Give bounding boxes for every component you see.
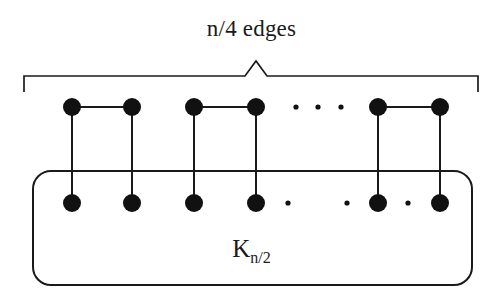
brace-path	[24, 61, 478, 92]
brace-n-over-4-edges	[24, 61, 478, 92]
node-b2	[123, 194, 141, 212]
ellipsis-dot-top-3	[338, 104, 343, 109]
node-b4	[247, 194, 265, 212]
node-t6	[431, 98, 449, 116]
ellipsis-dot-bottom-2	[344, 200, 349, 205]
node-t2	[123, 98, 141, 116]
ellipsis-dot-bottom-1	[285, 200, 290, 205]
ellipsis-dot-top-1	[293, 104, 298, 109]
ellipsis-dot-top-2	[315, 104, 320, 109]
bottom-row-nodes	[63, 194, 449, 212]
clique-label: Kn/2	[0, 235, 503, 267]
node-t4	[247, 98, 265, 116]
top-row-ellipsis-dots	[293, 104, 343, 109]
node-b6	[431, 194, 449, 212]
bottom-row-ellipsis-dots	[285, 200, 410, 205]
node-b3	[185, 194, 203, 212]
vertical-edges	[72, 107, 440, 203]
clique-box-rect	[33, 171, 472, 285]
node-b1	[63, 194, 81, 212]
ellipsis-dot-bottom-3	[405, 200, 410, 205]
node-b5	[369, 194, 387, 212]
clique-box-k-n-over-2	[33, 171, 472, 285]
clique-label-base: K	[232, 235, 250, 262]
node-t1	[63, 98, 81, 116]
node-t3	[185, 98, 203, 116]
clique-label-subscript: n/2	[250, 249, 270, 266]
figure-canvas: n/4 edges Kn/2	[0, 0, 503, 296]
node-t5	[369, 98, 387, 116]
brace-label: n/4 edges	[0, 16, 503, 42]
